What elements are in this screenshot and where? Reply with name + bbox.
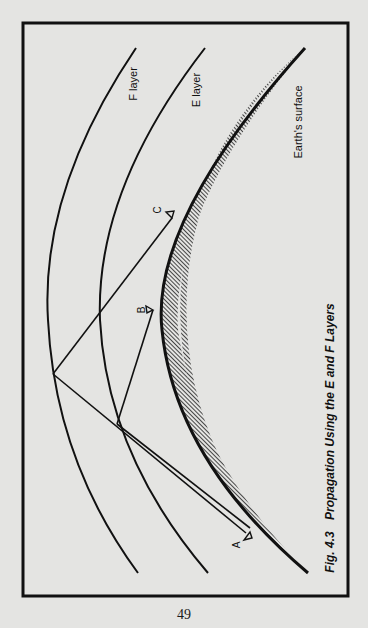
ray-e-to-b	[117, 310, 153, 424]
earth-surface-label: Earth's surface	[292, 85, 304, 158]
station-c-label: C	[152, 206, 163, 213]
ray-f-to-c	[53, 218, 172, 374]
e-layer-arc	[100, 48, 208, 573]
caption-number: Fig. 4.3	[323, 531, 337, 573]
page-number: 49	[0, 607, 368, 623]
f-layer-label: F layer	[127, 67, 139, 101]
station-a-label: A	[231, 541, 242, 548]
e-layer-label: E layer	[190, 73, 202, 108]
figure-caption: Fig. 4.3 Propagation Using the E and F L…	[323, 303, 337, 573]
propagation-diagram: C B A F layer E layer Earth's surface Fi…	[0, 0, 368, 628]
f-layer-arc	[47, 48, 138, 573]
caption-title: Propagation Using the E and F Layers	[323, 303, 337, 520]
station-c-antenna-icon	[166, 211, 174, 218]
station-b-label: B	[136, 306, 147, 313]
